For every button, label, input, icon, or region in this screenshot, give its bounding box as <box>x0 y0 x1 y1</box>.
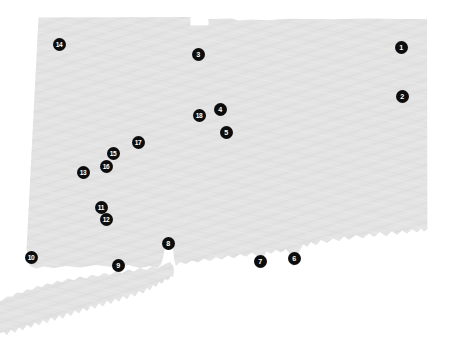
marker-7[interactable]: 7 <box>254 255 267 268</box>
marker-4[interactable]: 4 <box>214 103 227 116</box>
marker-13[interactable]: 13 <box>77 166 90 179</box>
marker-3[interactable]: 3 <box>192 48 205 61</box>
marker-12[interactable]: 12 <box>100 213 113 226</box>
state-landmass <box>0 17 427 335</box>
marker-6[interactable]: 6 <box>288 252 301 265</box>
marker-5[interactable]: 5 <box>220 126 233 139</box>
connecticut-state-shape <box>0 0 452 354</box>
marker-14[interactable]: 14 <box>53 38 66 51</box>
map-container: 123456789101112131415161718 <box>0 0 452 354</box>
marker-10[interactable]: 10 <box>25 251 38 264</box>
marker-11[interactable]: 11 <box>95 201 108 214</box>
marker-8[interactable]: 8 <box>162 237 175 250</box>
marker-1[interactable]: 1 <box>395 41 408 54</box>
marker-16[interactable]: 16 <box>100 160 113 173</box>
marker-9[interactable]: 9 <box>112 259 125 272</box>
marker-15[interactable]: 15 <box>107 147 120 160</box>
marker-18[interactable]: 18 <box>193 109 206 122</box>
marker-2[interactable]: 2 <box>396 90 409 103</box>
marker-17[interactable]: 17 <box>132 136 145 149</box>
